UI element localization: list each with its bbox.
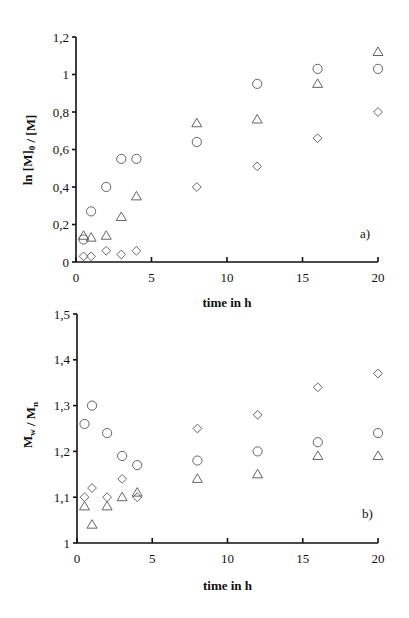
circle-marker xyxy=(133,461,142,470)
diamond-marker xyxy=(192,183,201,192)
x-tick-label: 10 xyxy=(221,270,234,285)
y-tick-label: 1 xyxy=(64,536,71,551)
diamond-marker xyxy=(313,134,322,143)
series-diamonds xyxy=(79,108,382,261)
triangle-marker xyxy=(102,501,112,510)
triangle-marker xyxy=(253,469,263,478)
circle-marker xyxy=(253,447,262,456)
figure: 00,20,40,60,811,205101520time in hln [M]… xyxy=(0,0,409,618)
chart-b: 11,11,21,31,41,505101520time in hMw / Mn… xyxy=(20,307,385,594)
series-triangles xyxy=(79,47,383,241)
circle-marker xyxy=(87,401,96,410)
x-tick-label: 5 xyxy=(148,270,155,285)
y-tick-label: 1,5 xyxy=(54,307,70,322)
y-axis-title: ln [M]0 / [M] xyxy=(20,115,38,186)
triangle-marker xyxy=(116,212,126,221)
x-tick-label: 0 xyxy=(74,551,81,566)
triangle-marker xyxy=(132,488,142,497)
y-tick-label: 1,2 xyxy=(53,30,69,45)
series-triangles xyxy=(80,451,383,528)
circle-marker xyxy=(117,154,126,163)
diamond-marker xyxy=(133,493,142,502)
circle-marker xyxy=(373,428,382,437)
triangle-marker xyxy=(80,501,90,510)
diamond-marker xyxy=(132,246,141,255)
circle-marker xyxy=(253,79,262,88)
diamond-marker xyxy=(117,250,126,259)
y-tick-label: 0,4 xyxy=(53,180,70,195)
panel-label: b) xyxy=(362,506,373,521)
triangle-marker xyxy=(192,474,202,483)
x-tick-label: 20 xyxy=(372,270,385,285)
diamond-marker xyxy=(253,410,262,419)
diamond-marker xyxy=(88,484,97,493)
y-tick-label: 0,2 xyxy=(53,217,69,232)
circle-marker xyxy=(80,419,89,428)
triangle-marker xyxy=(313,79,323,88)
circle-marker xyxy=(132,154,141,163)
chart-a: 00,20,40,60,811,205101520time in hln [M]… xyxy=(20,30,385,311)
x-axis-title: time in h xyxy=(202,295,252,310)
y-tick-label: 0,8 xyxy=(53,105,69,120)
circle-marker xyxy=(313,438,322,447)
triangle-marker xyxy=(373,47,383,56)
y-tick-label: 1,1 xyxy=(54,490,70,505)
diamond-marker xyxy=(102,246,111,255)
x-tick-label: 5 xyxy=(149,551,156,566)
diamond-marker xyxy=(374,369,383,378)
triangle-marker xyxy=(252,115,262,124)
y-tick-label: 0 xyxy=(63,255,70,270)
triangle-marker xyxy=(313,451,323,460)
series-diamonds xyxy=(80,369,382,501)
y-tick-label: 0,6 xyxy=(53,142,70,157)
circle-marker xyxy=(102,182,111,191)
circle-marker xyxy=(118,451,127,460)
y-tick-label: 1,2 xyxy=(54,444,70,459)
circle-marker xyxy=(193,456,202,465)
circle-marker xyxy=(313,64,322,73)
triangle-marker xyxy=(101,231,111,240)
x-axis-title: time in h xyxy=(203,578,253,593)
diamond-marker xyxy=(253,162,262,171)
diamond-marker xyxy=(313,383,322,392)
y-tick-label: 1,4 xyxy=(54,352,71,367)
triangle-marker xyxy=(87,520,97,529)
triangle-marker xyxy=(131,191,141,200)
panel-label: a) xyxy=(360,226,370,241)
triangle-marker xyxy=(117,492,127,501)
y-tick-label: 1 xyxy=(63,67,70,82)
triangle-marker xyxy=(192,118,202,127)
x-tick-label: 15 xyxy=(296,551,309,566)
triangle-marker xyxy=(373,451,383,460)
x-tick-label: 20 xyxy=(372,551,385,566)
x-tick-label: 0 xyxy=(73,270,80,285)
diamond-marker xyxy=(193,424,202,433)
y-tick-label: 1,3 xyxy=(54,398,70,413)
circle-marker xyxy=(192,137,201,146)
diamond-marker xyxy=(374,108,383,117)
x-tick-label: 10 xyxy=(221,551,234,566)
circle-marker xyxy=(87,207,96,216)
circle-marker xyxy=(103,428,112,437)
diamond-marker xyxy=(103,493,112,502)
diamond-marker xyxy=(118,474,127,483)
y-axis-title: Mw / Mn xyxy=(20,402,40,448)
x-tick-label: 15 xyxy=(296,270,309,285)
diamond-marker xyxy=(80,493,89,502)
circle-marker xyxy=(373,64,382,73)
series-circles xyxy=(80,401,383,470)
